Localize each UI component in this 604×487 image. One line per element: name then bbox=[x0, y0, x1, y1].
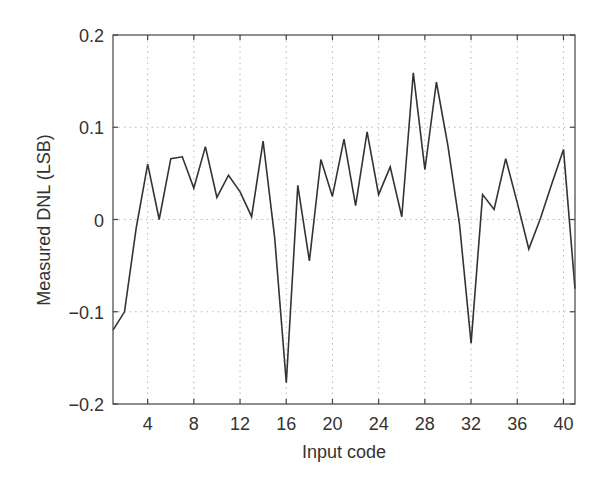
x-axis-label: Input code bbox=[302, 442, 386, 462]
x-tick-label: 36 bbox=[507, 414, 527, 434]
y-tick-labels: −0.2−0.100.10.2 bbox=[68, 26, 104, 415]
x-tick-label: 8 bbox=[189, 414, 199, 434]
data-series bbox=[113, 73, 575, 383]
dnl-line-chart: 481216202428323640 −0.2−0.100.10.2 Input… bbox=[0, 0, 604, 487]
x-tick-label: 20 bbox=[322, 414, 342, 434]
y-tick-label: −0.2 bbox=[68, 395, 104, 415]
y-axis-label: Measured DNL (LSB) bbox=[34, 134, 54, 305]
grid-lines bbox=[113, 35, 575, 404]
y-tick-label: 0.1 bbox=[79, 118, 104, 138]
x-tick-labels: 481216202428323640 bbox=[143, 414, 574, 434]
x-tick-label: 40 bbox=[553, 414, 573, 434]
x-tick-label: 28 bbox=[415, 414, 435, 434]
x-tick-label: 4 bbox=[143, 414, 153, 434]
y-tick-label: −0.1 bbox=[68, 303, 104, 323]
y-tick-label: 0.2 bbox=[79, 26, 104, 46]
x-tick-label: 12 bbox=[230, 414, 250, 434]
x-tick-label: 24 bbox=[369, 414, 389, 434]
x-tick-label: 32 bbox=[461, 414, 481, 434]
y-tick-label: 0 bbox=[94, 211, 104, 231]
x-tick-label: 16 bbox=[276, 414, 296, 434]
dnl-series-line bbox=[113, 73, 575, 383]
